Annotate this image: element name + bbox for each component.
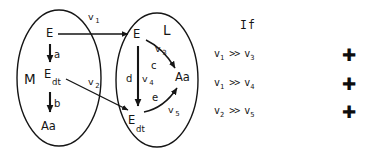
rate-label-a: a — [54, 49, 60, 60]
condition-row: v2>>v5 ✚ — [212, 103, 378, 121]
condition-right-subscript: 5 — [250, 111, 254, 119]
cross-flux-label-v2: v2 — [88, 76, 100, 90]
condition-expression: v1>>v4 — [214, 77, 255, 91]
flux-label-v5: v5 — [168, 104, 180, 118]
condition-operator: >> — [224, 105, 244, 116]
rate-label-e: e — [152, 92, 158, 103]
node-m-aa: Aa — [41, 119, 56, 133]
cross-flux-label-v1: v1 — [88, 11, 100, 25]
rate-label-b: b — [54, 98, 60, 109]
compartment-label-l: L — [163, 22, 171, 38]
conditions-header: If — [240, 18, 256, 32]
conditions-block: If v1>>v3 ✚ v1>>v4 ✚ v2>>v5 ✚ — [212, 18, 378, 136]
condition-row: v1>>v3 ✚ — [212, 46, 378, 64]
rate-label-c: c — [151, 60, 157, 71]
diagram-canvas: M E a E dt b Aa v1 v2 L E d v4 — [0, 0, 378, 155]
compartment-label-m: M — [24, 71, 36, 87]
node-m-edt: E — [44, 67, 51, 81]
condition-operator: >> — [224, 77, 244, 88]
condition-operator: >> — [224, 48, 244, 59]
node-m-edt-subscript: dt — [52, 77, 61, 87]
flux-label-v4: v4 — [142, 73, 154, 87]
condition-expression: v2>>v5 — [214, 105, 255, 119]
condition-right-subscript: 4 — [250, 83, 254, 91]
condition-expression: v1>>v3 — [214, 48, 255, 62]
node-l-edt-subscript: dt — [136, 124, 145, 134]
rate-label-d: d — [126, 73, 132, 84]
condition-marker-plus: ✚ — [342, 76, 356, 93]
node-l-e: E — [133, 27, 140, 41]
node-l-aa: Aa — [175, 70, 190, 84]
condition-right-subscript: 3 — [250, 54, 254, 62]
condition-marker-plus: ✚ — [342, 47, 356, 64]
node-m-e: E — [46, 26, 53, 40]
condition-row: v1>>v4 ✚ — [212, 75, 378, 93]
condition-marker-plus: ✚ — [342, 104, 356, 121]
node-l-edt: E — [128, 113, 135, 127]
